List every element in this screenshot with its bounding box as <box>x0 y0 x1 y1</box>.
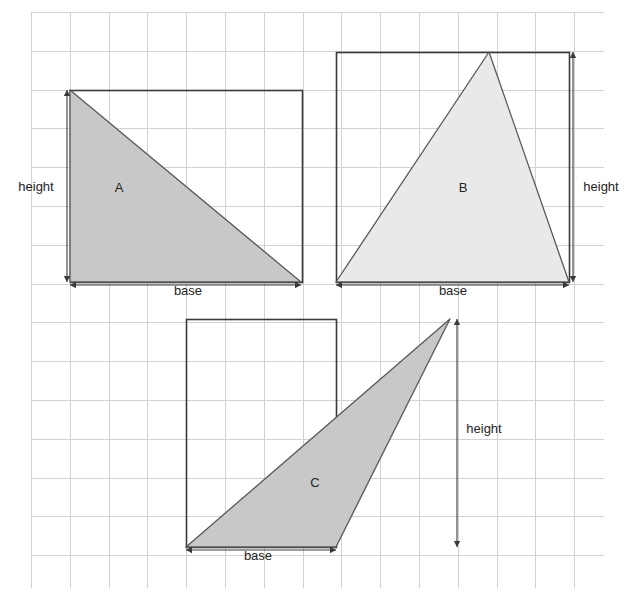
diagram-canvas: AheightbaseBheightbaseCheightbase <box>0 0 632 603</box>
dimension-label-height-C: height <box>466 421 502 436</box>
dimension-label-base-C: base <box>244 548 272 563</box>
shapes-group <box>70 52 570 548</box>
dimension-arrow-top-B-height <box>570 52 576 58</box>
triangle-A <box>70 90 301 282</box>
triangle-area-diagram: AheightbaseBheightbaseCheightbase <box>0 0 632 603</box>
dimension-label-base-B: base <box>439 283 467 298</box>
dimension-arrow-bottom-A-height <box>64 276 70 282</box>
dimension-arrow-bottom-B-height <box>570 276 576 282</box>
dimension-label-height-B: height <box>583 179 619 194</box>
shape-letter-A: A <box>115 180 124 195</box>
dimension-label-base-A: base <box>174 283 202 298</box>
dimension-arrow-bottom-C-height <box>454 541 460 547</box>
shape-letter-B: B <box>459 180 468 195</box>
shape-letter-C: C <box>310 475 319 490</box>
dimension-label-height-A: height <box>18 179 54 194</box>
